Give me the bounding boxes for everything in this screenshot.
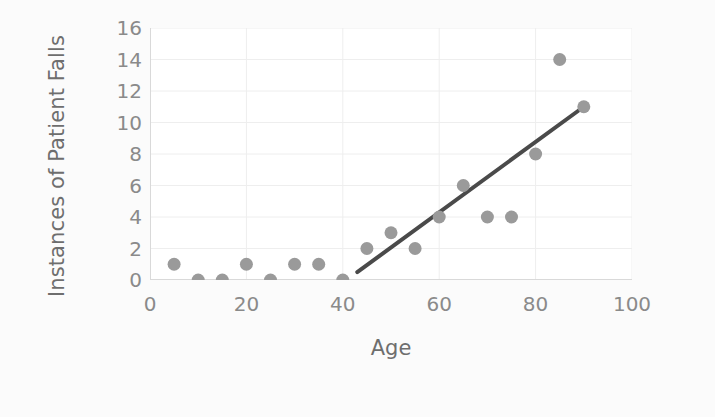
data-point [481, 211, 494, 224]
data-point [192, 274, 205, 281]
x-axis-tick-labels: 020406080100 [0, 294, 715, 324]
data-point [312, 258, 325, 271]
y-axis-tick-labels: 0246810121416 [96, 0, 142, 417]
y-tick-label: 10 [98, 113, 142, 133]
y-tick-label: 4 [98, 207, 142, 227]
x-tick-label: 60 [404, 294, 474, 314]
data-point [360, 242, 373, 255]
x-tick-label: 0 [115, 294, 185, 314]
data-point [216, 274, 229, 281]
data-point [264, 274, 277, 281]
data-point [505, 211, 518, 224]
y-tick-label: 0 [98, 270, 142, 290]
x-tick-label: 40 [308, 294, 378, 314]
trendline [357, 107, 584, 272]
x-tick-label: 100 [597, 294, 667, 314]
y-tick-label: 16 [98, 18, 142, 38]
data-point [409, 242, 422, 255]
x-tick-label: 80 [501, 294, 571, 314]
y-tick-label: 14 [98, 50, 142, 70]
data-point [336, 274, 349, 281]
trendline-segment [357, 107, 584, 272]
data-point [457, 179, 470, 192]
x-tick-label: 20 [211, 294, 281, 314]
scatter-chart: Instances of Patient Falls 0246810121416… [0, 0, 715, 417]
data-point [553, 53, 566, 66]
y-axis-title: Instances of Patient Falls [45, 16, 69, 316]
y-tick-label: 6 [98, 176, 142, 196]
y-tick-label: 2 [98, 239, 142, 259]
data-point [168, 258, 181, 271]
plot-area [150, 28, 632, 280]
plot-svg [150, 28, 632, 280]
y-tick-label: 12 [98, 81, 142, 101]
data-point [529, 148, 542, 161]
data-points [168, 53, 591, 280]
data-point [433, 211, 446, 224]
data-point [385, 226, 398, 239]
x-axis-title: Age [150, 336, 632, 360]
data-point [577, 100, 590, 113]
data-point [288, 258, 301, 271]
y-tick-label: 8 [98, 144, 142, 164]
data-point [240, 258, 253, 271]
